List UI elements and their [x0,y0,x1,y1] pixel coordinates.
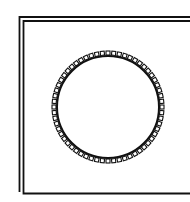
ring-tooth [111,159,115,163]
ring-tooth [89,156,94,161]
ring-tooth [54,121,59,126]
ring-tooth [52,99,56,103]
ring-tooth [56,82,61,87]
ring-tooth [53,93,58,98]
ring-tooth [52,110,56,114]
ring-tooth [155,126,160,131]
ring-tooth [83,55,88,60]
ring-tooth [100,159,104,163]
ring-tooth [122,53,127,58]
ring-tooth [127,154,132,159]
ring-tooth [94,157,99,162]
ring-tooth [89,53,94,58]
plate-diagram [0,0,190,202]
ring-tooth [158,116,163,121]
ring-tooth [94,52,99,57]
ring-tooth [158,93,163,98]
ring-tooth [53,116,58,121]
ring-tooth [160,110,164,114]
ring-tooth [122,156,127,161]
ring-tooth [160,99,164,103]
ring-tooth [157,121,162,126]
ring-tooth [117,157,122,162]
ring-tooth [155,82,160,87]
ring-tooth [106,159,110,163]
ring-tooth [117,52,122,57]
ring-tooth [54,88,59,93]
ring-tooth [157,88,162,93]
ring-tooth [111,51,115,55]
ring-tooth [106,51,110,55]
ring-tooth [83,154,88,159]
ring-tooth [52,105,56,109]
ring-tooth [56,126,61,131]
ring-tooth [160,105,164,109]
ring-tooth [100,51,104,55]
ring-tooth [127,55,132,60]
